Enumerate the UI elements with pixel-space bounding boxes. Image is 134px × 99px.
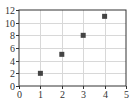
square-marker <box>38 71 43 76</box>
square-marker <box>59 52 64 57</box>
y-tick-label: 6 <box>10 43 15 54</box>
scatter-chart: 012345 024681012 <box>0 0 134 99</box>
square-marker <box>102 14 107 19</box>
x-tick-label: 0 <box>17 89 22 99</box>
x-axis-ticks: 012345 <box>17 86 129 99</box>
y-tick-label: 12 <box>5 5 15 16</box>
y-tick-label: 10 <box>5 18 15 29</box>
grid-lines <box>19 10 126 86</box>
y-tick-label: 4 <box>10 56 15 67</box>
y-tick-label: 0 <box>10 81 15 92</box>
x-tick-label: 3 <box>81 89 86 99</box>
y-axis-ticks: 024681012 <box>5 5 19 92</box>
x-tick-label: 2 <box>60 89 65 99</box>
y-tick-label: 8 <box>10 30 15 41</box>
y-tick-label: 2 <box>10 68 15 79</box>
square-marker <box>81 33 86 38</box>
x-tick-label: 1 <box>38 89 43 99</box>
x-tick-label: 5 <box>124 89 129 99</box>
x-tick-label: 4 <box>103 89 108 99</box>
